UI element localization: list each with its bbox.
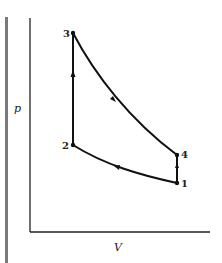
- point-2-marker: [71, 143, 75, 147]
- process-3-4-curve: [73, 33, 177, 155]
- point-4-label: 4: [181, 149, 188, 160]
- arrow-up-icon: [71, 70, 76, 77]
- pv-diagram: p V 3 2 4 1: [0, 0, 222, 263]
- point-3-label: 3: [63, 28, 70, 39]
- arrow-up-small-icon: [175, 163, 179, 168]
- point-3-marker: [71, 31, 75, 35]
- point-1-label: 1: [181, 178, 188, 189]
- point-1-marker: [175, 181, 179, 185]
- x-axis-label: V: [114, 241, 123, 254]
- point-2-label: 2: [62, 140, 69, 151]
- y-axis-label: p: [14, 102, 21, 115]
- process-1-2-curve: [73, 145, 177, 183]
- point-4-marker: [175, 153, 179, 157]
